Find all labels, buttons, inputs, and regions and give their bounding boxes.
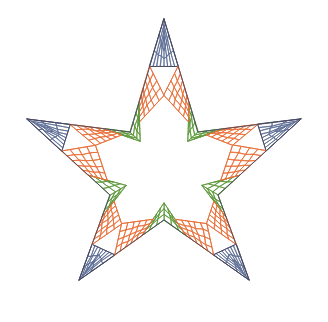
arm-band-patch [185, 226, 193, 232]
point-cap-patch [264, 137, 275, 147]
point-cap-patch [213, 253, 226, 263]
point-cap-patch [101, 252, 112, 261]
arm-band-patch [101, 137, 112, 142]
arm-band-patch [174, 81, 180, 93]
arm-band-patch [184, 111, 189, 122]
arm-band-patch [172, 87, 177, 99]
star-mesh-svg [0, 0, 328, 322]
arm-band-outline [164, 66, 189, 122]
arm-band-patch [156, 88, 164, 101]
arm-band-outline [139, 66, 164, 122]
arm-band-patch [139, 111, 144, 122]
point-cap-patch [101, 253, 114, 263]
arm-band-patch [178, 223, 187, 229]
point-cap-patch [164, 57, 168, 66]
arm-band-patch [195, 229, 204, 237]
figure-root [0, 0, 328, 322]
arm-band-patch [151, 94, 159, 106]
inner-corner-outline [188, 103, 225, 142]
point-cap-patch [160, 56, 164, 66]
point-cap-patch [91, 246, 98, 257]
arm-band-patch [106, 135, 116, 139]
arm-band-patch [171, 74, 177, 88]
arm-band-patch [222, 138, 234, 143]
arm-band-patch [153, 81, 161, 94]
point-cap-patch [50, 139, 63, 151]
mesh-cells-group [27, 19, 301, 280]
point-cap-patch [261, 132, 270, 138]
arm-band-patch [164, 88, 172, 101]
point-cap-patch [265, 140, 278, 151]
